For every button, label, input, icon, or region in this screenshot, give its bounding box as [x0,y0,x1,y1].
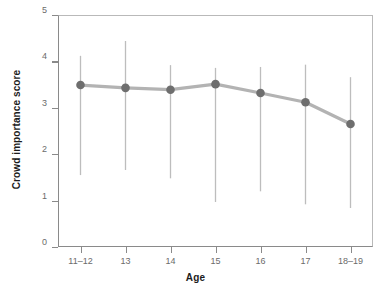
x-axis-tick-mark [306,247,307,253]
y-axis-tick-mark [52,201,58,202]
y-axis-tick-label: 2 [42,149,47,150]
data-point-marker [76,81,85,90]
y-axis-tick-mark [52,61,58,62]
x-axis-tick-label: 14 [165,256,175,266]
x-axis-tick-label: 15 [210,256,220,266]
y-axis-tick: 1 [0,201,58,202]
y-axis-tick-mark [52,108,58,109]
y-axis-tick-label: 5 [42,10,47,11]
y-axis-tick: 3 [0,108,58,109]
data-point-marker [301,98,310,107]
y-axis-tick: 2 [0,154,58,155]
x-axis-tick-label: 17 [300,256,310,266]
x-axis-tick-mark [126,247,127,253]
x-axis-tick-mark [81,247,82,253]
x-axis-tick-label: 18–19 [338,256,363,266]
data-point-marker [121,84,130,93]
data-point-marker [166,85,175,94]
y-axis-tick-label: 3 [42,103,47,104]
y-axis-tick-label: 1 [42,196,47,197]
data-point-marker [256,89,265,98]
data-point-marker [346,120,355,129]
y-axis-tick-mark [52,15,58,16]
y-axis-tick: 4 [0,61,58,62]
x-axis-tick-mark [216,247,217,253]
x-axis-tick-mark [351,247,352,253]
x-axis-title: Age [0,272,391,283]
y-axis-tick-mark [52,247,58,248]
data-point-marker [211,80,220,89]
y-axis-tick: 0 [0,247,58,248]
y-axis-title: Crowd importance score [11,35,22,225]
x-axis-tick-mark [261,247,262,253]
y-axis-tick: 5 [0,15,58,16]
chart-figure: 012345 11–12131415161718–19 Crowd import… [0,0,391,300]
y-axis-tick-label: 4 [42,56,47,57]
x-axis-tick-label: 11–12 [68,256,92,266]
x-axis-tick-mark [171,247,172,253]
y-axis-tick-label: 0 [42,242,47,243]
data-series-layer [58,15,373,247]
x-axis-tick-label: 13 [120,256,130,266]
x-axis-tick-label: 16 [255,256,265,266]
y-axis-tick-mark [52,154,58,155]
